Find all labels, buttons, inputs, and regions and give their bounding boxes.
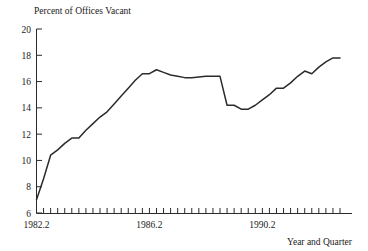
- x-axis-tick-labels: 1982.21986.21990.2: [23, 220, 275, 230]
- chart-title: Percent of Offices Vacant: [34, 6, 131, 16]
- y-tick-label: 8: [26, 182, 31, 192]
- vacancy-line-chart: Percent of Offices Vacant 68101214161820…: [0, 0, 368, 251]
- y-tick-label: 6: [26, 209, 31, 219]
- x-axis-tick-marks: [37, 208, 341, 214]
- y-tick-label: 10: [22, 156, 32, 166]
- y-axis-tick-labels: 68101214161820: [22, 25, 32, 219]
- x-axis-title: Year and Quarter: [287, 237, 353, 247]
- vacancy-rate-series: [37, 58, 341, 200]
- y-tick-label: 20: [22, 25, 32, 35]
- y-tick-label: 12: [22, 130, 32, 140]
- y-tick-label: 16: [22, 77, 32, 87]
- x-tick-label: 1982.2: [23, 220, 49, 230]
- chart-container: Percent of Offices Vacant 68101214161820…: [0, 0, 368, 251]
- x-tick-label: 1986.2: [136, 220, 162, 230]
- y-tick-label: 14: [22, 103, 32, 113]
- x-tick-label: 1990.2: [249, 220, 275, 230]
- y-tick-label: 18: [22, 51, 32, 61]
